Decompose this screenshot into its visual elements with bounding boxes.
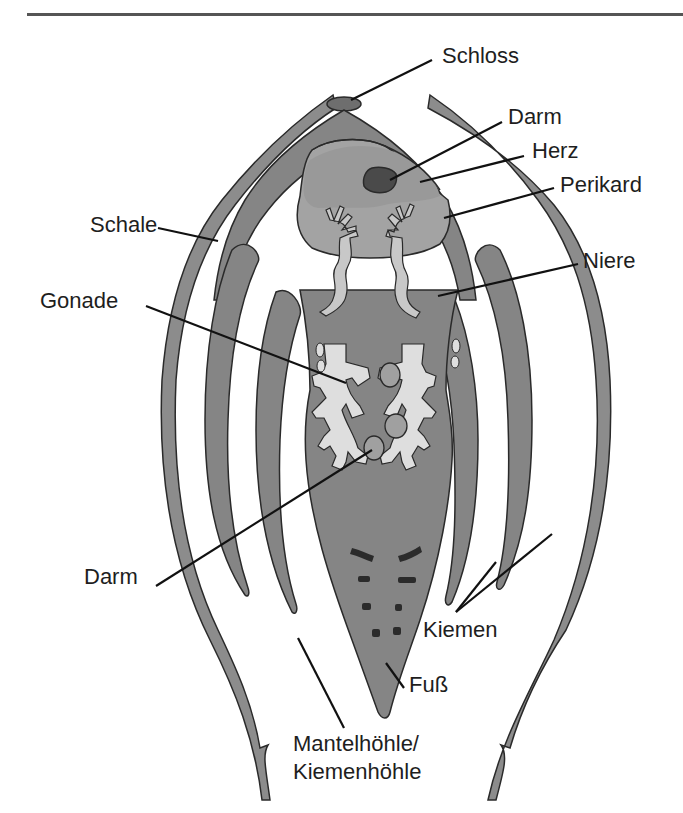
- label-niere: Niere: [583, 248, 636, 273]
- hinge-ligament: [327, 97, 361, 111]
- label-fuss: Fuß: [409, 672, 448, 697]
- mussel-cross-section-diagram: Schloss Darm Herz Perikard Schale Niere …: [0, 0, 683, 813]
- label-schloss: Schloss: [442, 43, 519, 68]
- leader-herz: [420, 156, 524, 182]
- label-mantelhoehle: Mantelhöhle/: [293, 731, 420, 756]
- gills-left: [205, 245, 300, 614]
- leader-perikard: [444, 188, 554, 218]
- leader-darm-top: [390, 122, 502, 180]
- leader-mantelhoehle: [298, 638, 344, 728]
- label-darm-bottom: Darm: [84, 564, 138, 589]
- gill-left-inner: [256, 291, 300, 614]
- label-perikard: Perikard: [560, 172, 642, 197]
- gill-left-outer: [205, 245, 259, 596]
- leader-schloss: [351, 60, 432, 100]
- label-darm-top: Darm: [508, 104, 562, 129]
- label-herz: Herz: [532, 138, 578, 163]
- gill-right-outer: [475, 245, 532, 589]
- label-kiemen: Kiemen: [423, 617, 498, 642]
- label-schale: Schale: [90, 212, 157, 237]
- label-kiemenhoehle: Kiemenhöhle: [293, 759, 421, 784]
- label-gonade: Gonade: [40, 288, 118, 313]
